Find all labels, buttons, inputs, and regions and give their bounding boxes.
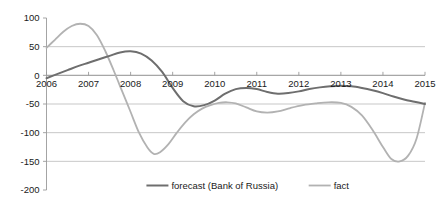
y-tick-label: 100 — [24, 12, 40, 23]
x-tick-label: 2013 — [330, 78, 351, 89]
legend-label: forecast (Bank of Russia) — [171, 180, 278, 191]
x-tick-label: 2010 — [204, 78, 225, 89]
legend-item[interactable]: fact — [309, 180, 350, 191]
x-tick-label: 2008 — [120, 78, 141, 89]
y-tick-label: -150 — [20, 156, 39, 167]
y-tick-label: -100 — [20, 127, 39, 138]
x-tick-label: 2009 — [162, 78, 183, 89]
y-tick-label: -200 — [20, 184, 39, 195]
series-line-forecast — [47, 51, 426, 106]
chart-legend: forecast (Bank of Russia)fact — [146, 180, 349, 191]
data-series — [47, 24, 426, 162]
x-axis-tick-labels: 2006200720082009201020112012201320142015 — [36, 78, 436, 89]
chart-container: 100500-50-100-150-200 200620072008200920… — [0, 0, 440, 204]
y-tick-label: 50 — [29, 41, 40, 52]
x-tick-label: 2006 — [36, 78, 57, 89]
x-tick-label: 2014 — [372, 78, 393, 89]
y-tick-label: -50 — [26, 98, 40, 109]
x-tick-label: 2007 — [78, 78, 99, 89]
legend-label: fact — [334, 180, 350, 191]
legend-item[interactable]: forecast (Bank of Russia) — [146, 180, 278, 191]
x-tick-label: 2015 — [414, 78, 435, 89]
line-chart: 100500-50-100-150-200 200620072008200920… — [0, 0, 440, 204]
x-tick-label: 2011 — [247, 78, 267, 89]
y-axis-tick-labels: 100500-50-100-150-200 — [20, 12, 39, 195]
series-line-fact — [47, 24, 426, 162]
x-tick-label: 2012 — [288, 78, 309, 89]
